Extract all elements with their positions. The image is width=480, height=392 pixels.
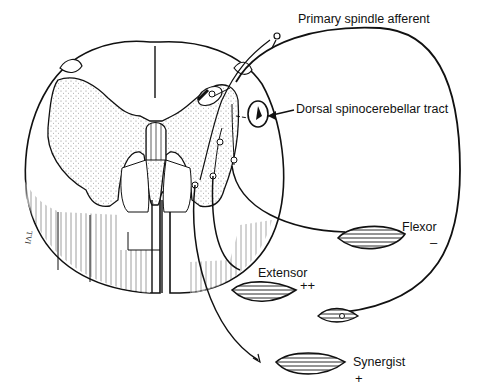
synergist-label: Synergist (353, 356, 405, 369)
flexor-label: Flexor (402, 221, 437, 234)
dorsal-spinocerebellar-tract-label: Dorsal spinocerebellar tract (296, 103, 448, 116)
extensor-sign: ++ (300, 279, 315, 292)
flexor-sign: – (430, 236, 437, 249)
dorsal-root-ganglion-icon (274, 33, 280, 39)
flexor-muscle-icon (338, 226, 405, 248)
diagram-artwork (0, 0, 480, 392)
synergist-muscle-icon (276, 353, 345, 374)
primary-spindle-afferent-label: Primary spindle afferent (298, 13, 430, 26)
extensor-muscle-icon (232, 282, 296, 302)
spinal-cord-section (22, 40, 284, 293)
synergist-sign: + (355, 372, 363, 385)
spinal-reflex-diagram: Primary spindle afferent Dorsal spinocer… (0, 0, 480, 392)
